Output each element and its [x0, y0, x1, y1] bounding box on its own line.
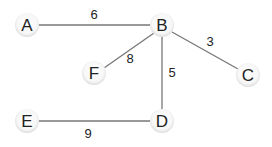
node-f: F	[82, 61, 106, 85]
node-a: A	[15, 13, 39, 37]
svg-text:E: E	[21, 112, 32, 131]
graph-diagram: 6 8 3 5 9 A B F C E D	[0, 0, 272, 147]
node-e: E	[15, 109, 39, 133]
edge-weight-e-d: 9	[84, 126, 91, 141]
svg-text:C: C	[242, 66, 254, 85]
svg-text:B: B	[156, 16, 167, 35]
edge-weight-b-d: 5	[168, 65, 175, 80]
edge-weight-b-c: 3	[206, 34, 213, 49]
node-d: D	[150, 109, 174, 133]
node-c: C	[236, 63, 260, 87]
svg-text:A: A	[21, 16, 33, 35]
edge-weight-a-b: 6	[90, 7, 97, 22]
edge-b-c	[172, 32, 238, 69]
node-b: B	[150, 13, 174, 37]
edge-weight-b-f: 8	[126, 51, 133, 66]
svg-text:D: D	[156, 112, 168, 131]
svg-text:F: F	[89, 64, 99, 83]
